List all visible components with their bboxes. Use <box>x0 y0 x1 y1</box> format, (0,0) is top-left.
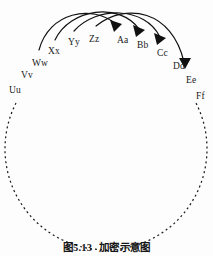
label-uu: Uu <box>9 86 21 96</box>
label-cc: Cc <box>157 49 168 59</box>
figure-container: Uu Vv Ww Xx Yy Zz Aa Bb Cc Dd Ee Ff 图5.1… <box>0 0 213 256</box>
figure-caption: 图5.13加密示意图 <box>0 239 213 254</box>
label-xx: Xx <box>48 47 60 57</box>
arrowhead-at-cc <box>154 33 166 45</box>
label-ff: Ff <box>196 92 205 102</box>
label-zz: Zz <box>89 35 99 45</box>
label-ww: Ww <box>32 59 48 69</box>
label-bb: Bb <box>137 41 148 51</box>
label-dd: Dd <box>173 62 185 72</box>
arrow-zz-to-ee-curve <box>96 13 184 62</box>
figure-caption-number: 图5.13 <box>63 242 92 253</box>
label-aa: Aa <box>117 36 128 46</box>
label-ee: Ee <box>186 76 196 86</box>
label-yy: Yy <box>68 38 80 48</box>
alphabet-ring <box>5 103 207 250</box>
diagram-canvas <box>0 0 213 256</box>
arrowhead-at-bb <box>133 25 145 37</box>
figure-caption-title: 加密示意图 <box>99 242 150 253</box>
arrowhead-at-aa <box>110 20 122 32</box>
label-vv: Vv <box>21 71 33 81</box>
